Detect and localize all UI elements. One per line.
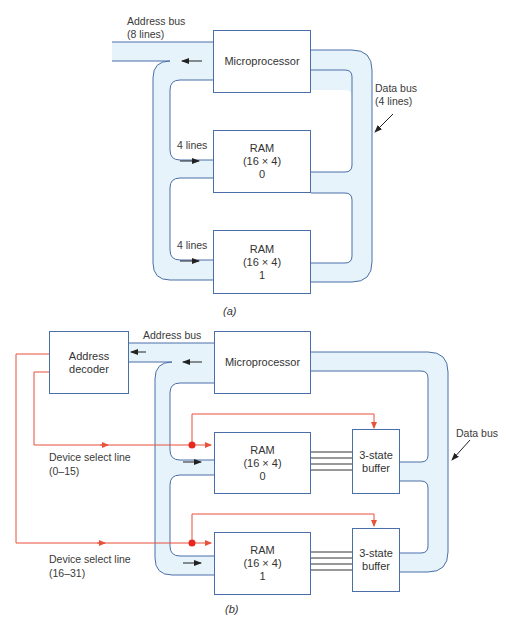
microprocessor-label: Microprocessor <box>224 55 299 68</box>
ram-size: (16 × 4) <box>243 155 281 168</box>
device-select-1-range: (16–31) <box>49 567 85 580</box>
ram-index: 1 <box>259 570 265 583</box>
microprocessor-label: Microprocessor <box>225 356 300 369</box>
ram-label: RAM <box>250 243 274 256</box>
buffer-label: 3-state <box>359 449 393 462</box>
bus-diagram-graphics <box>0 0 509 622</box>
ram-label: RAM <box>250 142 274 155</box>
tristate-buffer-0: 3-state buffer <box>352 429 400 494</box>
junction-node-1 <box>189 540 196 547</box>
ram-index: 1 <box>259 269 265 282</box>
data-bus-label-b: Data bus <box>456 427 498 440</box>
address-decoder-box: Address decoder <box>49 331 129 394</box>
ram0-lines-label-a: 4 lines <box>177 139 207 152</box>
ram1-box-a: RAM (16 × 4) 1 <box>213 230 311 294</box>
data-bus-label-a: Data bus <box>375 82 417 95</box>
address-bus-b <box>129 343 214 575</box>
microprocessor-box-b: Microprocessor <box>214 331 311 394</box>
junction-node-0 <box>189 442 196 449</box>
buffer-label: 3-state <box>359 547 393 560</box>
ram1-box-b: RAM (16 × 4) 1 <box>214 532 311 595</box>
ram1-lines-label-a: 4 lines <box>177 239 207 252</box>
data-bus-lines-label-a: (4 lines) <box>375 95 412 108</box>
address-decoder-label: Address <box>69 350 109 363</box>
ram-size: (16 × 4) <box>243 457 281 470</box>
tristate-buffer-1: 3-state buffer <box>352 528 400 592</box>
ram0-box-b: RAM (16 × 4) 0 <box>214 432 311 494</box>
device-select-1-label: Device select line <box>49 553 131 566</box>
ram0-box-a: RAM (16 × 4) 0 <box>213 130 311 193</box>
device-select-0-label: Device select line <box>49 451 131 464</box>
data-bus-a <box>311 50 372 282</box>
ram-size: (16 × 4) <box>243 256 281 269</box>
caption-a: (a) <box>223 305 236 317</box>
address-bus-lines-label-a: (8 lines) <box>127 28 164 41</box>
address-decoder-label-2: decoder <box>69 363 109 376</box>
address-bus-label-a: Address bus <box>127 15 185 28</box>
ram-label: RAM <box>250 444 274 457</box>
ram-index: 0 <box>259 470 265 483</box>
microprocessor-box-a: Microprocessor <box>213 30 311 93</box>
buffer-label-2: buffer <box>362 560 390 573</box>
ram-index: 0 <box>259 168 265 181</box>
ram-label: RAM <box>250 544 274 557</box>
ram-size: (16 × 4) <box>243 557 281 570</box>
caption-b: (b) <box>225 603 238 615</box>
buffer-label-2: buffer <box>362 462 390 475</box>
device-select-0-range: (0–15) <box>49 465 79 478</box>
address-bus-label-b: Address bus <box>143 329 201 342</box>
